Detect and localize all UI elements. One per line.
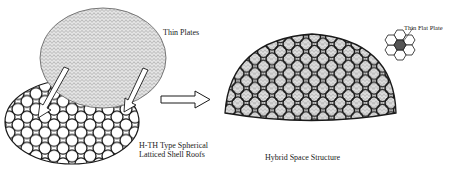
thin-flat-plate-label: Thin Flat Plate: [404, 23, 443, 32]
thin-plates-dome: [40, 8, 166, 108]
htth-lattice-label: H-TH Type Spherical Latticed Shell Roofs: [139, 141, 208, 159]
hybrid-space-structure-dome: [222, 30, 400, 130]
hybrid-structure-label: Hybrid Space Structure: [265, 153, 340, 162]
htth-label-line2: Latticed Shell Roofs: [139, 150, 208, 159]
thin-flat-plate-detail: [385, 28, 415, 60]
diagram-canvas: [0, 0, 457, 179]
thin-plates-label: Thin Plates: [163, 28, 199, 37]
transform-arrow-icon: [161, 91, 210, 108]
htth-label-line1: H-TH Type Spherical: [139, 141, 208, 150]
